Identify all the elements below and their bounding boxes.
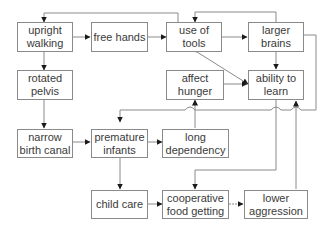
- node-long-dependency: long dependency: [162, 129, 229, 158]
- node-narrow-birth-canal: narrow birth canal: [17, 129, 73, 158]
- node-free-hands: free hands: [91, 22, 148, 52]
- node-affect-hunger: affect hunger: [166, 70, 224, 100]
- node-use-of-tools: use of tools: [166, 22, 222, 52]
- node-lower-aggression: lower aggression: [244, 190, 308, 219]
- node-premature-infants: premature infants: [91, 129, 148, 158]
- node-child-care: child care: [91, 190, 148, 219]
- node-ability-to-learn: ability to learn: [248, 70, 304, 100]
- node-larger-brains: larger brains: [248, 22, 304, 52]
- node-upright-walking: upright walking: [17, 22, 73, 52]
- node-rotated-pelvis: rotated pelvis: [17, 70, 73, 100]
- node-cooperative-food-getting: cooperative food getting: [162, 190, 229, 219]
